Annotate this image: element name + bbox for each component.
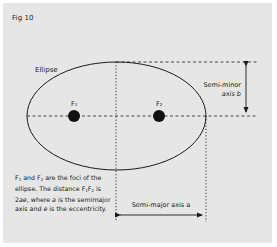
focus-1-dot	[68, 110, 80, 122]
focus-2-label: F₂	[156, 100, 163, 108]
semi-major-label: Semi-major axis a	[132, 201, 191, 209]
ellipse-label: Ellipse	[35, 66, 58, 74]
focus-1-label: F₁	[71, 100, 78, 108]
focus-2-dot	[153, 110, 165, 122]
semi-minor-label-line2: axis b	[222, 90, 241, 98]
figure-caption: F1 and F2 are the foci of the ellipse. T…	[15, 173, 115, 213]
semi-minor-label-line1: Semi-minor	[203, 81, 241, 89]
